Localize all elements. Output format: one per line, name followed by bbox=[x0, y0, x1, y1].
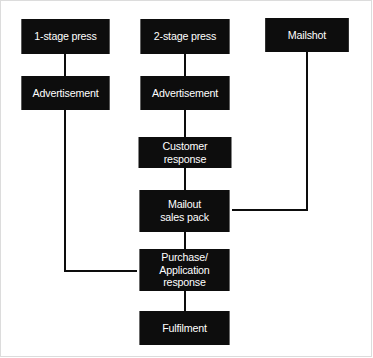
node-two-stage-press[interactable]: 2-stage press bbox=[140, 19, 229, 54]
connector-customer-to-mailout bbox=[184, 167, 186, 191]
connector-mailshot-to-mailout-vertical bbox=[306, 52, 308, 211]
node-customer-response[interactable]: Customer response bbox=[139, 137, 232, 168]
connector-press1-to-advert bbox=[64, 54, 66, 77]
node-label: Mailshot bbox=[285, 29, 329, 42]
connector-purchase-to-fulfilment bbox=[184, 290, 186, 312]
node-label: Purchase/ Application response bbox=[139, 251, 229, 290]
node-label: 1-stage press bbox=[32, 30, 100, 43]
connector-mailout-to-purchase bbox=[184, 231, 186, 250]
connector-press2-to-advert bbox=[184, 54, 186, 77]
connector-advert-left-to-purchase-horizontal bbox=[64, 270, 137, 272]
node-purchase-application-response[interactable]: Purchase/ Application response bbox=[139, 249, 229, 291]
diagram-canvas: 1-stage press 2-stage press Mailshot Adv… bbox=[0, 0, 373, 358]
node-label: 2-stage press bbox=[151, 30, 219, 43]
node-label: Mailout sales pack bbox=[157, 198, 211, 224]
connector-advert-left-to-purchase-vertical bbox=[64, 110, 66, 272]
node-mailshot[interactable]: Mailshot bbox=[265, 18, 349, 52]
node-label: Fulfilment bbox=[159, 322, 209, 335]
node-label: Advertisement bbox=[149, 87, 221, 100]
node-label: Customer response bbox=[139, 140, 232, 166]
node-fulfilment[interactable]: Fulfilment bbox=[139, 311, 229, 345]
node-mailout-sales-pack[interactable]: Mailout sales pack bbox=[139, 190, 229, 232]
connector-mailshot-to-mailout-horizontal bbox=[232, 209, 308, 211]
node-advertisement-centre[interactable]: Advertisement bbox=[140, 76, 229, 110]
node-label: Advertisement bbox=[30, 87, 102, 100]
node-one-stage-press[interactable]: 1-stage press bbox=[21, 19, 109, 54]
connector-advert-to-customer bbox=[184, 110, 186, 138]
node-advertisement-left[interactable]: Advertisement bbox=[21, 76, 109, 110]
